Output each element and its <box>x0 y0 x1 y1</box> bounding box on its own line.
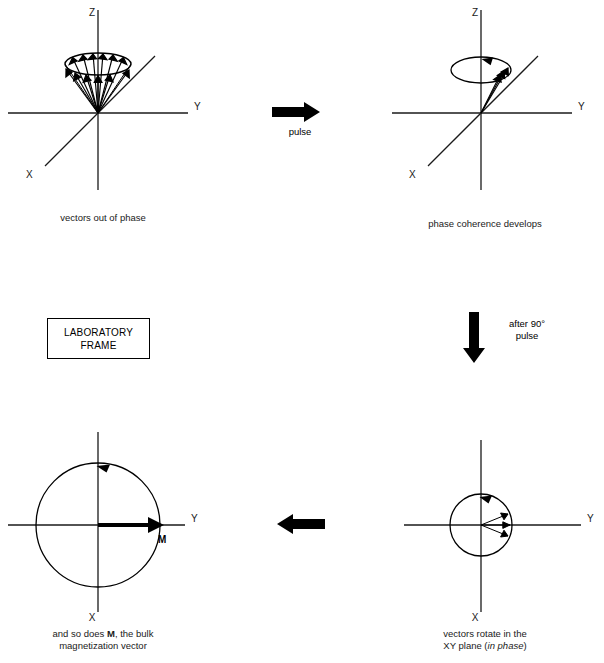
caption-m-pre: and so does <box>53 628 107 639</box>
transition-pulse-label: pulse <box>268 126 332 138</box>
axis-label-x: X <box>409 169 416 180</box>
caption-xy-line2-pre: XY plane ( <box>443 640 487 651</box>
arrow-down-icon <box>463 312 485 363</box>
caption-bulk-magnetization: and so does M, the bulkmagnetization vec… <box>23 628 183 652</box>
panel-bulk-magnetization: Y X M <box>0 425 302 625</box>
caption-xy-in-phase: in phase <box>488 640 524 651</box>
caption-vectors-rotate-xy: vectors rotate in theXY plane (in phase) <box>395 628 575 652</box>
magnetization-vector-label: M <box>158 534 166 545</box>
axis-label-y: Y <box>578 101 585 112</box>
caption-vectors-out-of-phase: vectors out of phase <box>18 212 188 224</box>
caption-xy-line1: vectors rotate in the <box>443 628 526 639</box>
arrow-right-icon <box>272 102 320 122</box>
axis-label-x: X <box>472 612 479 623</box>
magnetization-vector-m <box>98 517 164 533</box>
caption-m-line2: magnetization vector <box>59 640 147 651</box>
panel-vectors-rotate-xy: Y X <box>300 425 604 625</box>
caption-phase-coherence-develops: phase coherence develops <box>385 218 585 230</box>
panel-vectors-out-of-phase: Z Y X <box>0 0 302 200</box>
axis-label-z: Z <box>89 7 95 18</box>
axis-label-y: Y <box>194 101 201 112</box>
axis-label-z: Z <box>472 7 478 18</box>
axis-label-x: X <box>26 169 33 180</box>
caption-xy-line2-post: ) <box>523 640 526 651</box>
caption-m-symbol: M <box>107 628 115 639</box>
panel-phase-coherence-develops: Z Y X <box>300 0 604 200</box>
transition-after-90-pulse-down <box>462 310 488 366</box>
axis-label-x: X <box>89 612 96 623</box>
axis-x-line <box>428 56 538 166</box>
laboratory-frame-box: LABORATORY FRAME <box>47 318 150 359</box>
caption-m-post: , the bulk <box>115 628 154 639</box>
precession-direction-arrowhead <box>482 58 494 66</box>
axis-label-y: Y <box>587 513 594 524</box>
transition-pulse-right <box>268 100 332 124</box>
in-phase-vector-group <box>481 513 510 537</box>
axis-label-y: Y <box>191 513 198 524</box>
transition-after-90-pulse-label: after 90° pulse <box>492 318 562 342</box>
